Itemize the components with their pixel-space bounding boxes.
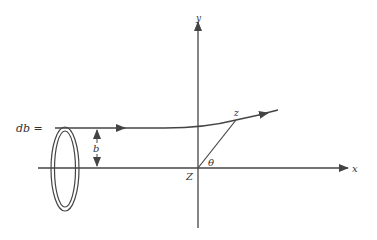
origin-label: Z [185,171,194,182]
point-label: z [233,108,239,118]
trajectory [120,120,236,128]
ring-outer [51,127,79,211]
trajectory-tail [266,110,278,113]
trajectory-outgoing [236,113,268,120]
impact-parameter-label: b [93,143,99,154]
ring-inner [55,131,76,207]
y-axis-label: y [195,13,202,23]
scattering-diagram: y x db = b z θ Z [0,0,377,240]
x-axis-label: x [352,163,358,174]
ring-width-label: db = [16,122,43,135]
angle-label: θ [208,157,214,168]
radial-line [198,120,236,168]
